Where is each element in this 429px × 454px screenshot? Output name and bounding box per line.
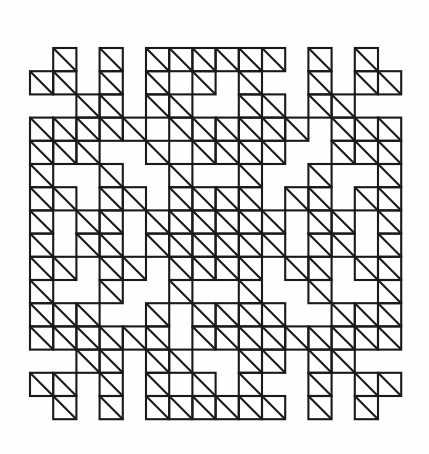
pattern-cell-diagonal bbox=[146, 350, 169, 373]
pattern-cell-diagonal bbox=[146, 71, 169, 94]
pattern-cell-diagonal bbox=[262, 326, 285, 349]
pattern-cell-diagonal bbox=[53, 141, 76, 164]
pattern-cell-diagonal bbox=[332, 141, 355, 164]
pattern-cell-diagonal bbox=[216, 210, 239, 233]
pattern-cell-diagonal bbox=[30, 210, 53, 233]
pattern-cell-diagonal bbox=[378, 210, 401, 233]
pattern-cell-diagonal bbox=[169, 280, 192, 303]
pattern-cell-diagonal bbox=[100, 326, 123, 349]
pattern-cell-diagonal bbox=[216, 48, 239, 71]
pattern-cell-diagonal bbox=[332, 303, 355, 326]
pattern-cell-diagonal bbox=[378, 373, 401, 396]
pattern-cell-diagonal bbox=[308, 350, 331, 373]
pattern-cell-diagonal bbox=[332, 326, 355, 349]
pattern-cell-diagonal bbox=[216, 303, 239, 326]
pattern-cell-diagonal bbox=[192, 141, 215, 164]
pattern-cell-diagonal bbox=[216, 187, 239, 210]
pattern-cell-diagonal bbox=[76, 303, 99, 326]
pattern-cell-diagonal bbox=[123, 257, 146, 280]
pattern-cell-diagonal bbox=[76, 234, 99, 257]
pattern-cell-diagonal bbox=[30, 71, 53, 94]
pattern-cell-diagonal bbox=[123, 187, 146, 210]
pattern-cell-diagonal bbox=[355, 187, 378, 210]
pattern-cell-diagonal bbox=[76, 118, 99, 141]
pattern-cell-diagonal bbox=[100, 234, 123, 257]
pattern-cell-diagonal bbox=[30, 373, 53, 396]
pattern-cell-diagonal bbox=[30, 326, 53, 349]
pattern-cell-diagonal bbox=[378, 234, 401, 257]
pattern-cell-diagonal bbox=[262, 141, 285, 164]
pattern-cell-diagonal bbox=[239, 94, 262, 117]
pattern-cell-diagonal bbox=[123, 118, 146, 141]
pattern-cell-diagonal bbox=[100, 164, 123, 187]
pattern-cell-diagonal bbox=[355, 71, 378, 94]
pattern-cell-diagonal bbox=[100, 94, 123, 117]
pattern-cell-diagonal bbox=[308, 326, 331, 349]
pattern-cell-diagonal bbox=[239, 350, 262, 373]
pattern-cell-diagonal bbox=[169, 234, 192, 257]
pattern-cell-diagonal bbox=[216, 257, 239, 280]
pattern-cell-diagonal bbox=[308, 396, 331, 419]
pattern-cell-diagonal bbox=[262, 118, 285, 141]
pattern-cell-diagonal bbox=[262, 48, 285, 71]
pattern-cell-diagonal bbox=[355, 373, 378, 396]
pattern-cell-diagonal bbox=[192, 234, 215, 257]
pattern-cell-diagonal bbox=[378, 118, 401, 141]
pattern-cell-diagonal bbox=[239, 118, 262, 141]
pattern-cell-diagonal bbox=[262, 303, 285, 326]
pattern-cell-diagonal bbox=[53, 118, 76, 141]
pattern-cell-diagonal bbox=[378, 303, 401, 326]
pattern-cell-diagonal bbox=[308, 210, 331, 233]
pattern-cell-diagonal bbox=[285, 257, 308, 280]
pattern-cell-diagonal bbox=[192, 71, 215, 94]
pattern-cell-diagonal bbox=[169, 164, 192, 187]
pattern-cell-diagonal bbox=[378, 141, 401, 164]
pattern-cell-diagonal bbox=[100, 257, 123, 280]
geometric-pattern-svg bbox=[0, 0, 429, 454]
pattern-cell-diagonal bbox=[146, 210, 169, 233]
pattern-cell-diagonal bbox=[378, 280, 401, 303]
pattern-cell-diagonal bbox=[192, 373, 215, 396]
pattern-cell-diagonal bbox=[378, 71, 401, 94]
pattern-cell-diagonal bbox=[76, 94, 99, 117]
pattern-cell-diagonal bbox=[308, 257, 331, 280]
pattern-cell-diagonal bbox=[378, 326, 401, 349]
pattern-cell-diagonal bbox=[53, 326, 76, 349]
pattern-cell-diagonal bbox=[308, 94, 331, 117]
pattern-cell-diagonal bbox=[332, 234, 355, 257]
pattern-cell-diagonal bbox=[355, 141, 378, 164]
pattern-cell-diagonal bbox=[239, 280, 262, 303]
pattern-cell-diagonal bbox=[100, 280, 123, 303]
pattern-cell-diagonal bbox=[100, 187, 123, 210]
pattern-cell-diagonal bbox=[30, 303, 53, 326]
pattern-cell-diagonal bbox=[239, 234, 262, 257]
pattern-cell-diagonal bbox=[262, 234, 285, 257]
pattern-cell-diagonal bbox=[100, 71, 123, 94]
pattern-cell-diagonal bbox=[216, 326, 239, 349]
pattern-cell-diagonal bbox=[332, 350, 355, 373]
pattern-cell-diagonal bbox=[192, 48, 215, 71]
pattern-cell-diagonal bbox=[308, 48, 331, 71]
pattern-cell-diagonal bbox=[239, 373, 262, 396]
pattern-cell-diagonal bbox=[308, 373, 331, 396]
pattern-cell-diagonal bbox=[239, 187, 262, 210]
pattern-cell-diagonal bbox=[355, 118, 378, 141]
pattern-cell-diagonal bbox=[216, 118, 239, 141]
pattern-cell-diagonal bbox=[169, 187, 192, 210]
pattern-cell-diagonal bbox=[308, 164, 331, 187]
pattern-cell-diagonal bbox=[192, 210, 215, 233]
pattern-cell-diagonal bbox=[239, 303, 262, 326]
pattern-cell-diagonal bbox=[146, 94, 169, 117]
pattern-cell-diagonal bbox=[30, 141, 53, 164]
pattern-cell-diagonal bbox=[239, 210, 262, 233]
pattern-cell-diagonal bbox=[30, 118, 53, 141]
pattern-cell-diagonal bbox=[239, 164, 262, 187]
pattern-cell-diagonal bbox=[285, 326, 308, 349]
pattern-cell-diagonal bbox=[123, 326, 146, 349]
pattern-cell-diagonal bbox=[285, 187, 308, 210]
pattern-cell-group bbox=[30, 48, 401, 419]
pattern-cell-diagonal bbox=[262, 350, 285, 373]
pattern-cell-diagonal bbox=[262, 94, 285, 117]
pattern-cell-diagonal bbox=[100, 210, 123, 233]
pattern-cell-diagonal bbox=[30, 164, 53, 187]
